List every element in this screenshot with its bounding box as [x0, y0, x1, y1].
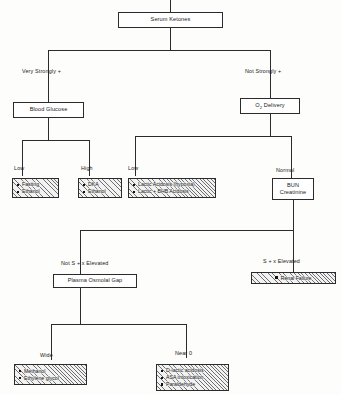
edge-label-very-strongly-positive: Very Strongly + — [22, 68, 61, 75]
outcome-item: Lactic + BHB Acidosis — [132, 188, 212, 195]
outcome-item: Ethylene glycol — [18, 375, 83, 382]
connector-level1-bus — [48, 50, 270, 51]
connector-gap-bus — [51, 324, 186, 325]
node-bun-creatinine-line1: BUN — [287, 182, 299, 190]
node-plasma-osmolal-gap-label: Plasma Osmolal Gap — [68, 277, 123, 285]
node-o2-delivery-label: O2 Delivery — [255, 102, 285, 111]
connector-glucose-down — [48, 118, 49, 140]
outcome-item: Fasting — [16, 181, 55, 188]
connector-level1-left-drop — [48, 50, 49, 102]
outcome-item: Ethanol — [16, 188, 55, 195]
connector-bun-right-drop — [293, 230, 294, 272]
outcome-gap-wide: Methanol Ethylene glycol — [14, 364, 87, 385]
outcome-glucose-high: DKA Ethanol — [78, 178, 122, 198]
flowchart-canvas: Serum Ketones Very Strongly + Not Strong… — [0, 0, 342, 395]
edge-label-not-strongly-positive: Not Strongly + — [245, 68, 281, 75]
node-serum-ketones-label: Serum Ketones — [151, 16, 191, 24]
outcome-item: Lactic Acidosis (hypoxia) — [132, 181, 212, 188]
node-o2-delivery: O2 Delivery — [240, 98, 300, 114]
node-blood-glucose: Blood Glucose — [13, 102, 84, 118]
node-o2-delivery-label-post: Delivery — [262, 102, 285, 108]
edge-label-gap-wide: Wide — [40, 352, 53, 359]
node-bun-creatinine-line2: Creatinine — [280, 189, 307, 197]
edge-label-not-s-elevated: Not S + x Elevated — [61, 260, 109, 267]
outcome-gap-near-zero: D-lactic acidosis ASA intoxication Paral… — [156, 364, 229, 391]
edge-label-o2-low: Low — [128, 165, 138, 172]
connector-gap-down — [80, 288, 81, 324]
outcome-item: DKA — [82, 181, 118, 188]
connector-root-top — [170, 0, 171, 12]
connector-o2-down — [270, 114, 271, 136]
outcome-glucose-low: Fasting Ethanol — [12, 178, 59, 198]
outcome-renal-failure: Renal Failure — [251, 272, 336, 284]
connector-bun-bus — [80, 230, 294, 231]
outcome-item: Ethanol — [82, 188, 118, 195]
connector-bun-left-drop — [80, 230, 81, 274]
node-serum-ketones: Serum Ketones — [118, 12, 223, 28]
outcome-item: ASA intoxication — [160, 374, 225, 381]
edge-label-o2-normal: Normal — [276, 167, 294, 174]
edge-label-s-elevated: S + x Elevated — [263, 258, 300, 265]
outcome-item: Methanol — [18, 368, 83, 375]
connector-bun-down — [293, 200, 294, 230]
outcome-item: Renal Failure — [255, 275, 332, 282]
edge-label-glucose-low: Low — [14, 165, 24, 172]
node-plasma-osmolal-gap: Plasma Osmolal Gap — [53, 274, 137, 288]
edge-label-gap-near-zero: Near 0 — [175, 350, 192, 357]
node-bun-creatinine: BUN Creatinine — [272, 178, 314, 200]
connector-glucose-bus — [22, 140, 89, 141]
connector-root-down — [170, 28, 171, 50]
edge-label-glucose-high: High — [81, 165, 93, 172]
outcome-item: Paraldehyde — [160, 381, 225, 388]
outcome-o2-low: Lactic Acidosis (hypoxia) Lactic + BHB A… — [128, 178, 216, 198]
node-blood-glucose-label: Blood Glucose — [30, 106, 68, 114]
connector-o2-bus — [135, 136, 291, 137]
